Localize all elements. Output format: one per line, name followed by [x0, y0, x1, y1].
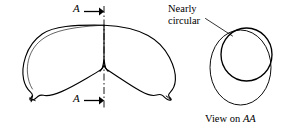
nearly-circular-line1: Nearly: [168, 3, 200, 15]
crescent-outline: [23, 25, 176, 100]
section-marker-top: [84, 8, 104, 16]
section-marker-label-top: A: [73, 2, 80, 14]
section-marker-bottom: [84, 97, 104, 105]
nearly-circular-line2: circular: [168, 15, 200, 27]
inner-near-circle: [221, 28, 272, 81]
section-marker-label-bottom: A: [73, 92, 80, 104]
section-arrow-bottom-head: [99, 97, 104, 105]
view-on-caption-prefix: View on: [205, 113, 243, 124]
section-aa-view: [210, 28, 272, 105]
view-on-caption-section: AA: [243, 113, 256, 124]
outer-oval: [210, 30, 271, 105]
nearly-circular-callout: Nearly circular: [168, 3, 200, 26]
nearly-circular-leader-line: [206, 19, 233, 37]
section-arrow-top-head: [99, 8, 104, 16]
crescent-inner-edge: [27, 25, 104, 89]
crescent-plan-view: [23, 6, 176, 110]
view-on-aa-caption: View on AA: [205, 113, 256, 125]
